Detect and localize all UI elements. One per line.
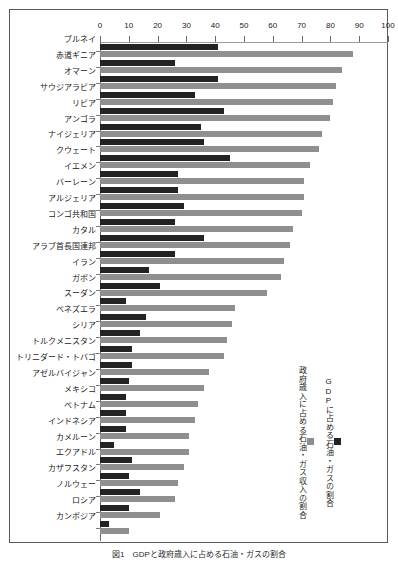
bar-revenue-share [100, 528, 129, 534]
x-tick-label-10: 10 [124, 21, 133, 30]
bar-gdp-share [100, 187, 178, 193]
bar-revenue-share [100, 321, 232, 327]
category-label: オマーン [64, 67, 96, 76]
category-label: カタル [72, 226, 96, 235]
category-label: カンボジア [56, 512, 96, 521]
x-tick-70 [302, 36, 303, 42]
axis-top-rule [100, 42, 388, 43]
bar-row [100, 124, 388, 140]
bar-revenue-share [100, 480, 178, 486]
x-tick-label-100: 100 [381, 21, 394, 30]
bar-gdp-share [100, 346, 132, 352]
bar-row [100, 505, 388, 521]
category-label: クウェート [56, 146, 96, 155]
bar-revenue-share [100, 274, 281, 280]
bar-gdp-share [100, 378, 129, 384]
bar-gdp-share [100, 489, 140, 495]
bar-revenue-share [100, 115, 330, 121]
bar-row [100, 330, 388, 346]
bar-gdp-share [100, 60, 175, 66]
bar-revenue-share [100, 385, 204, 391]
legend-label-revenue: 政府歳入に占める石油・ガス収入の割合 [296, 366, 307, 519]
x-tick-30 [186, 36, 187, 42]
category-label: スーダン [64, 289, 96, 298]
category-label: シリア [72, 321, 96, 330]
bar-row [100, 314, 388, 330]
bar-revenue-share [100, 178, 304, 184]
category-label: ナイジェリア [48, 130, 96, 139]
x-tick-90 [359, 36, 360, 42]
category-label: ロシア [72, 496, 96, 505]
bar-row [100, 92, 388, 108]
x-tick-label-0: 0 [98, 21, 102, 30]
category-label: 赤道ギニア [56, 51, 96, 60]
category-label: アルジェリア [48, 194, 96, 203]
chart-legend: GDPに占める石油・ガスの割合政府歳入に占める石油・ガス収入の割合 [296, 355, 341, 530]
bar-row [100, 267, 388, 283]
bar-gdp-share [100, 108, 224, 114]
bar-revenue-share [100, 210, 302, 216]
x-tick-label-60: 60 [268, 21, 277, 30]
bar-row [100, 251, 388, 267]
bar-revenue-share [100, 146, 319, 152]
bar-row [100, 489, 388, 505]
bar-gdp-share [100, 426, 126, 432]
bar-row [100, 346, 388, 362]
bar-gdp-share [100, 124, 201, 130]
category-label: ベトナム [64, 401, 96, 410]
legend-swatch-revenue [307, 438, 314, 445]
bar-gdp-share [100, 505, 129, 511]
bar-revenue-share [100, 83, 336, 89]
category-label: カメルーン [56, 433, 96, 442]
category-label: インドネシア [48, 417, 96, 426]
bar-revenue-share [100, 194, 304, 200]
bar-revenue-share [100, 353, 224, 359]
bar-gdp-share [100, 251, 175, 257]
bar-revenue-share [100, 337, 227, 343]
bar-row [100, 298, 388, 314]
bar-row [100, 187, 388, 203]
bar-revenue-share [100, 401, 198, 407]
category-label: コンゴ共和国 [48, 210, 96, 219]
bar-row [100, 283, 388, 299]
bar-row [100, 521, 388, 537]
x-tick-100 [388, 36, 389, 42]
bar-row [100, 44, 388, 60]
bar-row [100, 76, 388, 92]
bar-revenue-share [100, 449, 189, 455]
bar-gdp-share [100, 442, 114, 448]
category-label: メキシコ [64, 385, 96, 394]
bar-revenue-share [100, 226, 293, 232]
bar-revenue-share [100, 417, 195, 423]
x-tick-80 [330, 36, 331, 42]
bar-gdp-share [100, 298, 126, 304]
legend-label-gdp: GDPに占める石油・ガスの割合 [323, 377, 334, 508]
bar-gdp-share [100, 473, 129, 479]
bar-revenue-share [100, 496, 175, 502]
bar-gdp-share [100, 235, 204, 241]
legend-swatch-gdp [334, 438, 341, 445]
bar-gdp-share [100, 283, 160, 289]
bar-gdp-share [100, 203, 184, 209]
bar-gdp-share [100, 44, 218, 50]
category-label: トリニダード・トバゴ [16, 353, 96, 362]
bar-revenue-share [100, 99, 333, 105]
bar-gdp-share [100, 155, 230, 161]
bar-row [100, 457, 388, 473]
x-tick-label-30: 30 [182, 21, 191, 30]
category-label: トルクメニスタン [32, 337, 96, 346]
bar-revenue-share [100, 258, 284, 264]
bar-row [100, 235, 388, 251]
figure-page: 0102030405060708090100 ブルネイ赤道ギニアオマーンサウジア… [0, 0, 398, 564]
bar-row [100, 203, 388, 219]
category-label: イエメン [64, 162, 96, 171]
category-label: サウジアラビア [40, 83, 96, 92]
category-label: バーレーン [56, 178, 96, 187]
x-tick-label-80: 80 [326, 21, 335, 30]
category-label: アンゴラ [64, 115, 96, 124]
category-label: ガボン [72, 274, 96, 283]
bar-row [100, 394, 388, 410]
bar-revenue-share [100, 131, 322, 137]
bar-gdp-share [100, 171, 178, 177]
legend-item-revenue: 政府歳入に占める石油・ガス収入の割合 [296, 355, 314, 530]
